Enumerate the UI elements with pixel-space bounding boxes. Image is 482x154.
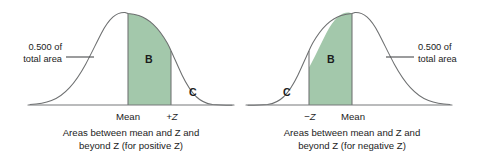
axis-label-mean-negative: Mean (341, 111, 365, 122)
panel-negative-z: 0.500 of total area B C −Z Mean Areas be… (246, 13, 458, 151)
caption-line1-positive: Areas between mean and Z and (63, 127, 200, 138)
normal-curve-figure: 0.500 of total area B C Mean +Z Areas be… (0, 0, 482, 154)
half-area-label-line2-negative: total area (418, 54, 458, 64)
half-area-label-line1-negative: 0.500 of (418, 42, 452, 52)
axis-label-z-positive: +Z (166, 111, 179, 122)
axis-label-z-negative: −Z (304, 111, 317, 122)
region-label-c-positive: C (189, 86, 197, 98)
caption-line1-negative: Areas between mean and Z and (284, 127, 421, 138)
axis-label-mean-positive: Mean (116, 111, 140, 122)
region-label-c-negative: C (283, 86, 291, 98)
caption-line2-negative: beyond Z (for negative Z) (298, 140, 406, 151)
panel-positive-z: 0.500 of total area B C Mean +Z Areas be… (23, 13, 234, 151)
figure-canvas: 0.500 of total area B C Mean +Z Areas be… (0, 0, 482, 154)
region-label-b-negative: B (327, 53, 335, 65)
half-area-label-line2-positive: total area (23, 54, 63, 64)
region-label-b-positive: B (145, 53, 153, 65)
half-area-label-line1-positive: 0.500 of (28, 42, 62, 52)
caption-line2-positive: beyond Z (for positive Z) (79, 140, 183, 151)
